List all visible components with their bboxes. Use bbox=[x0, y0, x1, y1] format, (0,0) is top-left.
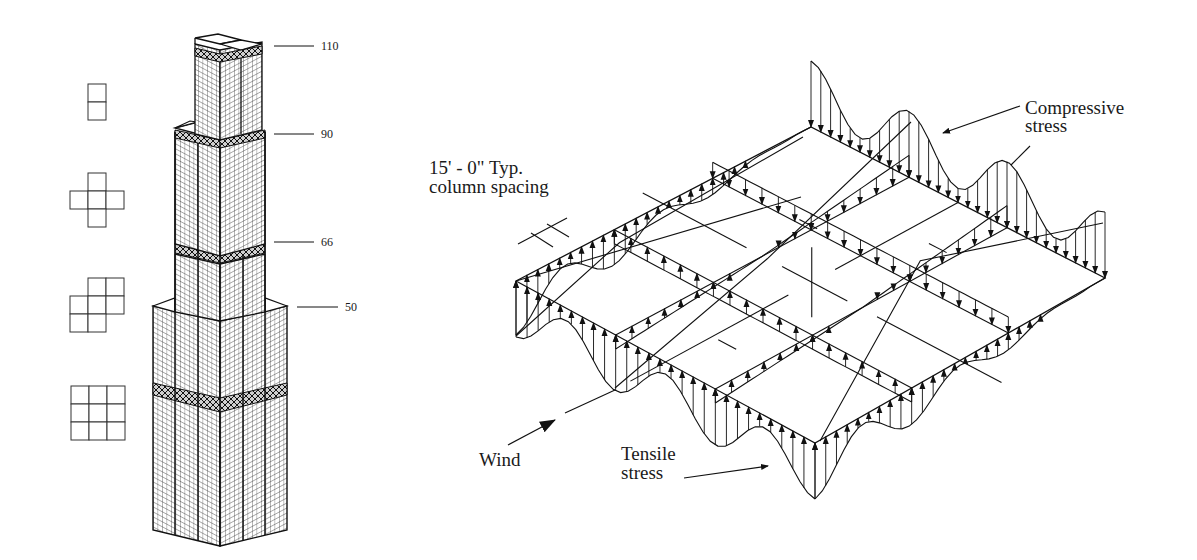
level-label-90: 90 bbox=[321, 128, 333, 140]
plan-9-tubes bbox=[71, 386, 125, 440]
upper-front-face bbox=[198, 137, 220, 256]
bundled-tube-building bbox=[153, 34, 287, 546]
compressive-leader-2 bbox=[1011, 146, 1030, 165]
stress-diagonal bbox=[615, 122, 911, 388]
compressive-stress-label-line2: stress bbox=[1025, 117, 1067, 135]
dimension-tick bbox=[531, 233, 553, 247]
wind-label: Wind bbox=[479, 451, 520, 469]
tensile-stress-label-line2: stress bbox=[621, 464, 663, 482]
level-label-66: 66 bbox=[321, 236, 333, 248]
tensile-stress-label-line1: Tensile bbox=[621, 445, 676, 463]
dash bbox=[929, 243, 947, 252]
level-label-50: 50 bbox=[345, 301, 357, 313]
level-label-110: 110 bbox=[321, 40, 339, 52]
plan-7-tubes bbox=[70, 278, 124, 332]
column-spacing-label-line2: column spacing bbox=[429, 178, 549, 196]
base-left-face bbox=[153, 306, 220, 546]
plan-cross-5-tubes bbox=[70, 173, 124, 227]
stress-curve bbox=[616, 155, 909, 349]
structural-diagram bbox=[0, 0, 1197, 560]
center-axis-b2 bbox=[782, 267, 847, 301]
compressive-leader bbox=[943, 106, 1020, 133]
dash bbox=[718, 340, 736, 350]
plan-icons bbox=[70, 84, 125, 440]
dimension-tick bbox=[547, 224, 569, 237]
wind-arrow bbox=[508, 420, 555, 445]
stress-curve bbox=[713, 162, 1009, 317]
shear-lag-stress-diagram bbox=[508, 61, 1105, 499]
stress-curve bbox=[815, 278, 1105, 499]
stress-curve bbox=[715, 206, 1007, 403]
upper-right-face bbox=[220, 132, 265, 256]
column-spacing-label-line1: 15' - 0" Typ. bbox=[429, 159, 523, 177]
upper-left-face bbox=[175, 132, 198, 250]
base-right-face bbox=[220, 306, 287, 546]
tensile-leader bbox=[684, 466, 768, 478]
zero-stress-diagonal bbox=[516, 197, 801, 281]
stress-curve bbox=[811, 61, 1105, 240]
stress-diagonal bbox=[516, 137, 803, 336]
level-leader-lines bbox=[274, 46, 338, 307]
wind-axis-line bbox=[565, 390, 615, 413]
plan-2-tubes bbox=[88, 84, 106, 120]
